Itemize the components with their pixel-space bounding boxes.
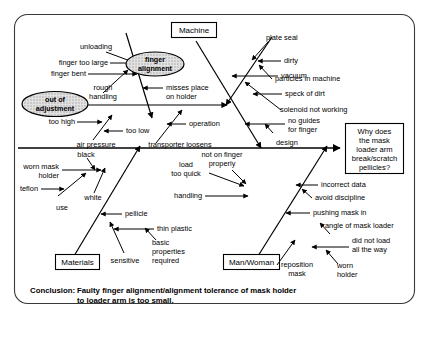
cause-too-quick: too quick (171, 169, 201, 178)
category-box-man-woman[interactable]: Man/Woman (224, 255, 280, 270)
conclusion-line-1: Faulty finger alignment/alignment tolera… (77, 286, 296, 295)
highlight-finger-alignment-line-1: finger (145, 55, 165, 64)
cause-white: white (83, 193, 101, 202)
cause-use: use (56, 203, 68, 212)
highlight-out-of-adjustment-line-2: adjustment (36, 104, 75, 113)
cause-teflon: teflon (20, 184, 38, 193)
cause-no-guides: no guides (288, 116, 320, 125)
cause-air-pressure: air pressure (76, 140, 115, 149)
cause-properly: properly (209, 159, 236, 168)
cause-reposition: reposition (281, 260, 313, 269)
cause-holder-materials: holder (38, 171, 59, 180)
cause-vacuum: vacuum (281, 71, 307, 80)
cause-thin-plastic: thin plastic (157, 224, 192, 233)
cause-pellicle: pellicle (125, 209, 148, 218)
cause-rough: rough (94, 83, 113, 92)
category-label-machine: Machine (179, 26, 210, 35)
cause-required: required (152, 256, 179, 265)
effect-line-2: the mask (359, 136, 390, 145)
cause-operation: operation (189, 119, 220, 128)
cause-for-finger: for finger (288, 125, 318, 134)
cause-handling-upper: handling (89, 92, 117, 101)
highlight-out-of-adjustment-line-1: out of (45, 95, 66, 104)
cause-angle-of-mask-loader: angle of mask loader (325, 221, 394, 230)
conclusion-line-2: to loader arm is too small. (77, 296, 174, 305)
cause-not-on-finger: not on finger (201, 150, 243, 159)
cause-on-holder: on holder (166, 92, 197, 101)
cause-incorrect-data: incorrect data (321, 180, 367, 189)
effect-line-4: break/scratch (352, 154, 398, 163)
highlight-finger-alignment-line-2: alignment (138, 64, 173, 73)
cause-black: black (77, 150, 95, 159)
effect-box[interactable]: Why does the mask loader arm break/scrat… (346, 124, 404, 174)
cause-holder-man: holder (337, 270, 358, 279)
effect-line-1: Why does (358, 127, 392, 136)
fishbone-svg: Machine Materials Man/Woman Why does the… (0, 0, 429, 344)
cause-worn: worn (336, 261, 353, 270)
cause-dirty: dirty (284, 56, 298, 65)
conclusion-label: Conclusion: (30, 286, 75, 295)
cause-too-high: too high (49, 117, 75, 126)
category-box-machine[interactable]: Machine (172, 23, 217, 38)
cause-mask: mask (288, 269, 306, 278)
cause-properties: properties (152, 247, 185, 256)
cause-finger-bent: finger bent (51, 69, 86, 78)
cause-transporter-loosens: transporter loosens (148, 140, 212, 149)
cause-plate-seal: plate seal (266, 33, 298, 42)
cause-solenoid-not-working: solenoid not working (280, 105, 347, 114)
cause-all-the-way: all the way (352, 245, 387, 254)
highlight-finger-alignment[interactable]: finger alignment (126, 52, 184, 76)
cause-pushing-mask-in: pushing mask in (313, 208, 366, 217)
cause-load: load (179, 160, 193, 169)
cause-avoid-discipline: avoid discipline (315, 193, 365, 202)
cause-speck-of-dirt: speck of dirt (285, 89, 325, 98)
cause-did-not-load: did not load (352, 236, 390, 245)
cause-misses-place: misses place (166, 83, 209, 92)
effect-line-5: pellicles? (359, 163, 390, 172)
highlight-out-of-adjustment[interactable]: out of adjustment (22, 92, 88, 117)
cause-design: design (276, 138, 298, 147)
category-label-man-woman: Man/Woman (229, 258, 274, 267)
cause-unloading: unloading (80, 42, 112, 51)
cause-handling-lower: handling (174, 191, 202, 200)
cause-worn-mask: worn mask (22, 162, 59, 171)
fishbone-diagram-canvas: Machine Materials Man/Woman Why does the… (0, 0, 429, 344)
cause-basic: basic (152, 238, 170, 247)
category-box-materials[interactable]: Materials (56, 255, 100, 270)
cause-too-low: too low (126, 126, 150, 135)
cause-finger-too-large: finger too large (59, 58, 108, 67)
category-label-materials: Materials (61, 258, 93, 267)
cause-sensitive: sensitive (111, 256, 140, 265)
effect-line-3: loader arm (356, 145, 392, 154)
